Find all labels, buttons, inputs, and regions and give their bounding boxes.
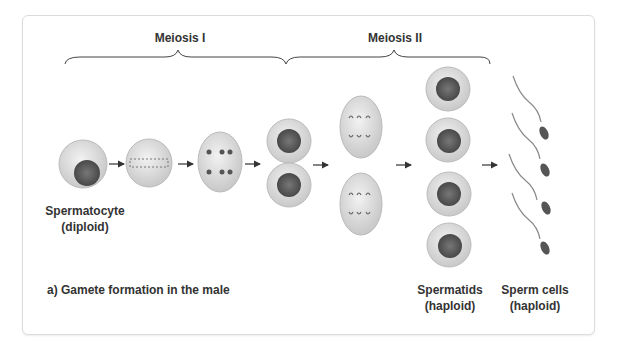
telophase1-cell <box>267 119 311 207</box>
meiosis1-label: Meiosis I <box>140 30 220 46</box>
sperm-cells-label: Sperm cells (haploid) <box>490 282 580 314</box>
meiosis2-label: Meiosis II <box>355 30 435 46</box>
meiosis2-brace <box>286 50 490 64</box>
anaphase1-cell <box>198 132 242 192</box>
figure-caption: a) Gamete formation in the male <box>47 282 267 298</box>
spermatids-ploidy: (haploid) <box>405 298 495 314</box>
spermatocyte-cell <box>59 140 107 188</box>
spermatid-cells <box>426 67 471 267</box>
meiosis1-brace <box>65 50 286 64</box>
spermatocyte-name: Spermatocyte <box>30 203 140 219</box>
meiosis2-cells <box>340 96 382 235</box>
spermatocyte-label: Spermatocyte (diploid) <box>30 203 140 235</box>
sperm-cells-name: Sperm cells <box>490 282 580 298</box>
spermatids-label: Spermatids (haploid) <box>405 282 495 314</box>
metaphase1-cell <box>126 139 172 187</box>
spermatocyte-ploidy: (diploid) <box>30 219 140 235</box>
sperm-cells-ploidy: (haploid) <box>490 298 580 314</box>
sperm-cells <box>509 76 541 239</box>
spermatids-name: Spermatids <box>405 282 495 298</box>
